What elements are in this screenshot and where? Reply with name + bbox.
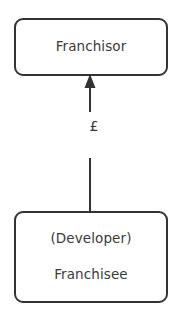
node-franchisee-label-developer: (Developer) bbox=[50, 231, 131, 247]
arrowhead-icon bbox=[85, 74, 96, 88]
node-franchisor-label: Franchisor bbox=[56, 39, 127, 55]
node-franchisor[interactable]: Franchisor bbox=[14, 18, 168, 76]
diagram-canvas: Franchisor £ (Developer) Franchisee bbox=[0, 0, 188, 313]
connector-label-payment: £ bbox=[0, 119, 188, 133]
node-franchisee-label-franchisee: Franchisee bbox=[54, 267, 128, 283]
node-franchisee[interactable]: (Developer) Franchisee bbox=[14, 211, 168, 303]
